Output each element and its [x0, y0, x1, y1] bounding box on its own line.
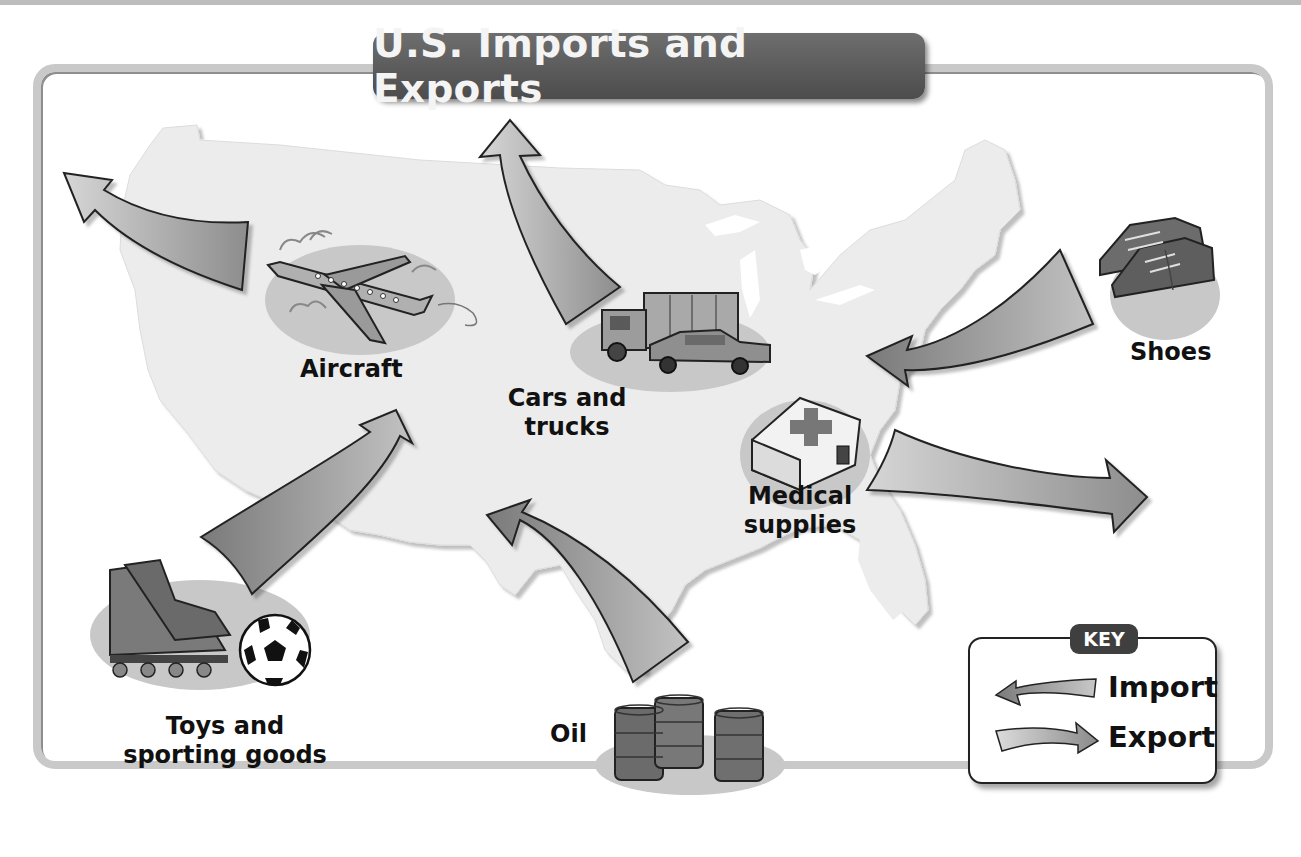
page-title: U.S. Imports and Exports — [373, 21, 925, 111]
legend-export-label: Export — [1108, 720, 1215, 754]
label-aircraft: Aircraft — [300, 355, 403, 384]
label-line: Medical — [730, 482, 870, 511]
label-medical-supplies: Medical supplies — [730, 482, 870, 540]
legend-row-export: Export — [970, 717, 1215, 761]
arrow-medical-export — [867, 430, 1147, 532]
label-line: sporting goods — [100, 741, 350, 770]
label-line: Toys and — [100, 712, 350, 741]
export-arrow-icon — [992, 721, 1102, 761]
label-line: supplies — [730, 511, 870, 540]
label-toys-and-sporting-goods: Toys and sporting goods — [100, 712, 350, 770]
label-cars-and-trucks: Cars and trucks — [502, 384, 632, 442]
title-banner: U.S. Imports and Exports — [373, 33, 925, 99]
label-oil: Oil — [550, 720, 587, 749]
label-shoes: Shoes — [1130, 338, 1211, 367]
legend-key: KEY Import Export — [968, 637, 1217, 784]
label-line: trucks — [502, 413, 632, 442]
import-arrow-icon — [992, 671, 1102, 711]
legend-badge: KEY — [1070, 624, 1138, 654]
legend-row-import: Import — [970, 667, 1215, 711]
label-line: Cars and — [502, 384, 632, 413]
oil-barrels-icon — [615, 695, 763, 781]
legend-import-label: Import — [1108, 670, 1218, 704]
